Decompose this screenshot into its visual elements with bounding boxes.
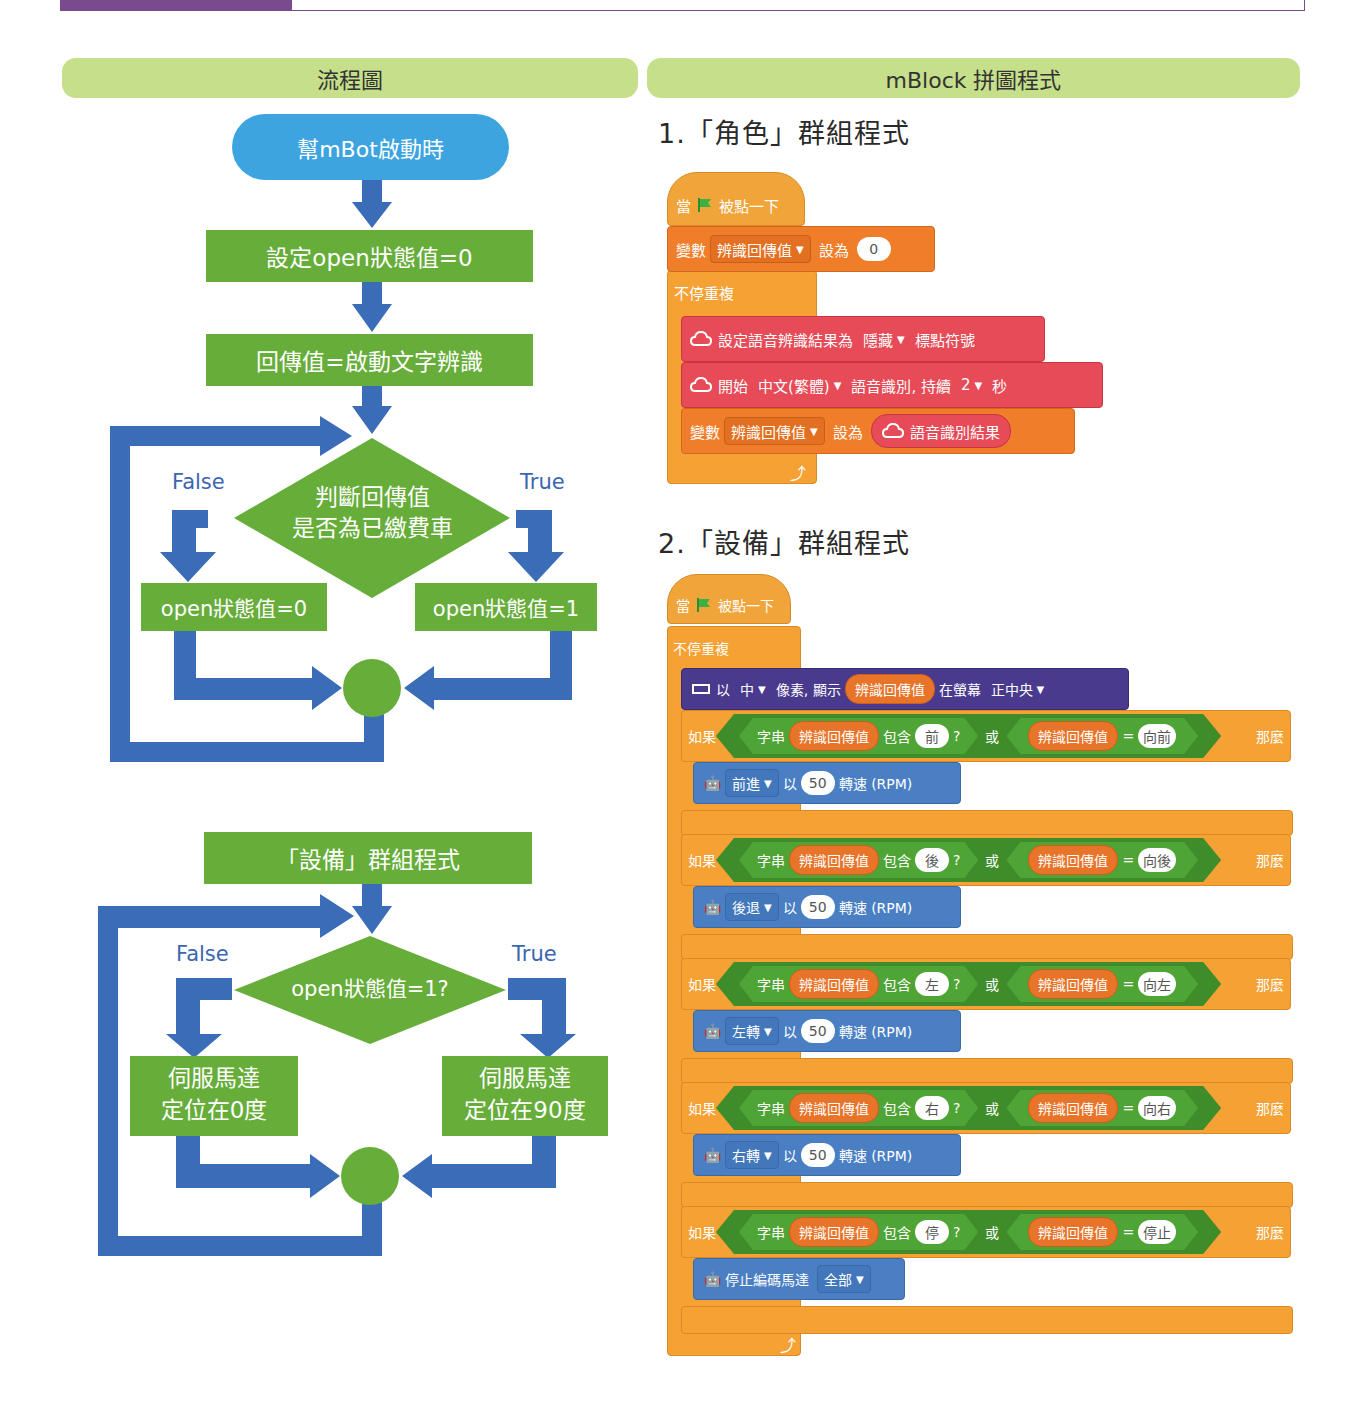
if-footer bbox=[681, 810, 1293, 836]
open-0-label: open狀態值=0 bbox=[141, 583, 327, 631]
variable-reporter[interactable]: 辨識回傳值 bbox=[845, 674, 935, 704]
equals-operator[interactable]: 辨識回傳值 = 向右 bbox=[1006, 1090, 1198, 1126]
variable-reporter[interactable]: 辨識回傳值 bbox=[789, 1093, 879, 1123]
variable-reporter[interactable]: 辨識回傳值 bbox=[1028, 845, 1118, 875]
cloud-ai-icon bbox=[690, 331, 712, 347]
variable-reporter[interactable]: 辨識回傳值 bbox=[789, 721, 879, 751]
equals-input[interactable]: 向右 bbox=[1138, 1096, 1176, 1120]
or-operator[interactable]: 字串 辨識回傳值 包含 前 ? 或 辨識回傳值 = 向前 bbox=[716, 714, 1221, 758]
equals-operator[interactable]: 辨識回傳值 = 向後 bbox=[1006, 842, 1198, 878]
if-block[interactable]: 如果 字串 辨識回傳值 包含 後 ? 或 辨識回傳值 = 向後 那麼 🤖 後退▼… bbox=[681, 834, 1293, 960]
contains-input[interactable]: 左 bbox=[915, 972, 949, 996]
if-block[interactable]: 如果 字串 辨識回傳值 包含 前 ? 或 辨識回傳值 = 向前 那麼 🤖 前進▼… bbox=[681, 710, 1293, 836]
set-punctuation-block[interactable]: 設定語音辨識結果為 隱藏▼ 標點符號 bbox=[681, 316, 1045, 362]
contains-operator[interactable]: 字串 辨識回傳值 包含 左 ? bbox=[739, 966, 978, 1002]
variable-dropdown[interactable]: 辨識回傳值▼ bbox=[724, 417, 825, 445]
if-header[interactable]: 如果 字串 辨識回傳值 包含 前 ? 或 辨識回傳值 = 向前 那麼 bbox=[681, 710, 1291, 762]
equals-input[interactable]: 向左 bbox=[1138, 972, 1176, 996]
contains-operator[interactable]: 字串 辨識回傳值 包含 前 ? bbox=[739, 718, 978, 754]
contains-input[interactable]: 前 bbox=[915, 724, 949, 748]
servo-90-line2: 定位在90度 bbox=[442, 1094, 608, 1126]
open-1-label: open狀態值=1 bbox=[415, 583, 597, 631]
dropdown-arrow-icon: ▼ bbox=[1037, 684, 1045, 695]
stop-motor-block[interactable]: 🤖 停止編碼馬達 全部▼ bbox=[693, 1258, 905, 1300]
or-operator[interactable]: 字串 辨識回傳值 包含 停 ? 或 辨識回傳值 = 停止 bbox=[716, 1210, 1221, 1254]
if-block[interactable]: 如果 字串 辨識回傳值 包含 右 ? 或 辨識回傳值 = 向右 那麼 🤖 右轉▼… bbox=[681, 1082, 1293, 1208]
speed-input[interactable]: 50 bbox=[801, 895, 835, 919]
variable-reporter[interactable]: 辨識回傳值 bbox=[789, 969, 879, 999]
move-block[interactable]: 🤖 右轉▼ 以 50 轉速 (RPM) bbox=[693, 1134, 961, 1176]
equals-operator[interactable]: 辨識回傳值 = 向前 bbox=[1006, 718, 1198, 754]
variable-reporter[interactable]: 辨識回傳值 bbox=[1028, 1093, 1118, 1123]
if-header[interactable]: 如果 字串 辨識回傳值 包含 左 ? 或 辨識回傳值 = 向左 那麼 bbox=[681, 958, 1291, 1010]
move-block[interactable]: 🤖 前進▼ 以 50 轉速 (RPM) bbox=[693, 762, 961, 804]
contains-label: 包含 bbox=[883, 1222, 911, 1242]
contains-input[interactable]: 後 bbox=[915, 848, 949, 872]
direction-dropdown[interactable]: 後退▼ bbox=[725, 893, 779, 921]
equals-sign: = bbox=[1122, 728, 1134, 744]
motor-dropdown[interactable]: 全部▼ bbox=[817, 1265, 871, 1293]
equals-operator[interactable]: 辨識回傳值 = 停止 bbox=[1006, 1214, 1198, 1250]
if-block[interactable]: 如果 字串 辨識回傳值 包含 停 ? 或 辨識回傳值 = 停止 那麼 🤖 停止編… bbox=[681, 1206, 1293, 1334]
equals-input[interactable]: 向後 bbox=[1138, 848, 1176, 872]
question-mark: ? bbox=[953, 728, 960, 744]
display-mid: 像素, 顯示 bbox=[776, 679, 841, 699]
if-header[interactable]: 如果 字串 辨識回傳值 包含 後 ? 或 辨識回傳值 = 向後 那麼 bbox=[681, 834, 1291, 886]
variable-reporter[interactable]: 辨識回傳值 bbox=[1028, 721, 1118, 751]
or-operator[interactable]: 字串 辨識回傳值 包含 左 ? 或 辨識回傳值 = 向左 bbox=[716, 962, 1221, 1006]
equals-input[interactable]: 停止 bbox=[1138, 1220, 1176, 1244]
seconds-dropdown[interactable]: 2▼ bbox=[955, 372, 988, 398]
when-flag-clicked-hat-1[interactable]: 當 被點一下 bbox=[667, 172, 805, 226]
speed-input[interactable]: 50 bbox=[801, 1019, 835, 1043]
direction-dropdown[interactable]: 右轉▼ bbox=[725, 1141, 779, 1169]
position-option: 正中央 bbox=[991, 679, 1033, 699]
if-header[interactable]: 如果 字串 辨識回傳值 包含 右 ? 或 辨識回傳值 = 向右 那麼 bbox=[681, 1082, 1291, 1134]
value-input[interactable]: 0 bbox=[857, 237, 891, 261]
rpm-label: 轉速 (RPM) bbox=[839, 1021, 913, 1041]
variable-reporter[interactable]: 辨識回傳值 bbox=[789, 845, 879, 875]
equals-operator[interactable]: 辨識回傳值 = 向左 bbox=[1006, 966, 1198, 1002]
variable-reporter[interactable]: 辨識回傳值 bbox=[789, 1217, 879, 1247]
move-block[interactable]: 🤖 後退▼ 以 50 轉速 (RPM) bbox=[693, 886, 961, 928]
or-operator[interactable]: 字串 辨識回傳值 包含 右 ? 或 辨識回傳值 = 向右 bbox=[716, 1086, 1221, 1130]
position-dropdown[interactable]: 正中央▼ bbox=[985, 676, 1051, 702]
set-variable-block-1[interactable]: 變數 辨識回傳值▼ 設為 0 bbox=[667, 226, 935, 272]
variable-reporter[interactable]: 辨識回傳值 bbox=[1028, 969, 1118, 999]
when-flag-clicked-hat-2[interactable]: 當 被點一下 bbox=[667, 574, 791, 624]
contains-operator[interactable]: 字串 辨識回傳值 包含 右 ? bbox=[739, 1090, 978, 1126]
size-dropdown[interactable]: 中▼ bbox=[734, 676, 772, 702]
language-dropdown[interactable]: 中文(繁體)▼ bbox=[752, 372, 847, 398]
hat-clicked-text: 被點一下 bbox=[718, 595, 774, 615]
move-block[interactable]: 🤖 左轉▼ 以 50 轉速 (RPM) bbox=[693, 1010, 961, 1052]
contains-input[interactable]: 右 bbox=[915, 1096, 949, 1120]
if-header[interactable]: 如果 字串 辨識回傳值 包含 停 ? 或 辨識回傳值 = 停止 那麼 bbox=[681, 1206, 1291, 1258]
variable-dropdown[interactable]: 辨識回傳值▼ bbox=[710, 235, 811, 263]
if-block[interactable]: 如果 字串 辨識回傳值 包含 左 ? 或 辨識回傳值 = 向左 那麼 🤖 左轉▼… bbox=[681, 958, 1293, 1084]
string-label: 字串 bbox=[757, 974, 785, 994]
forever-label-2: 不停重複 bbox=[673, 638, 729, 658]
servo-90-line1: 伺服馬達 bbox=[442, 1062, 608, 1094]
cloud-ai-icon bbox=[882, 423, 904, 439]
recognition-result-reporter[interactable]: 語音識別結果 bbox=[871, 414, 1011, 448]
then-label: 那麼 bbox=[1256, 726, 1284, 746]
speed-input[interactable]: 50 bbox=[801, 771, 835, 795]
direction-option: 後退 bbox=[732, 897, 760, 917]
string-label: 字串 bbox=[757, 1098, 785, 1118]
mblock-header: mBlock 拼圖程式 bbox=[647, 58, 1300, 98]
contains-input[interactable]: 停 bbox=[915, 1220, 949, 1244]
display-text-block[interactable]: 以 中▼ 像素, 顯示 辨識回傳值 在螢幕 正中央▼ bbox=[681, 668, 1129, 710]
or-operator[interactable]: 字串 辨識回傳值 包含 後 ? 或 辨識回傳值 = 向後 bbox=[716, 838, 1221, 882]
contains-operator[interactable]: 字串 辨識回傳值 包含 後 ? bbox=[739, 842, 978, 878]
equals-input[interactable]: 向前 bbox=[1138, 724, 1176, 748]
set-variable-block-2[interactable]: 變數 辨識回傳值▼ 設為 語音識別結果 bbox=[681, 408, 1075, 454]
variable-reporter[interactable]: 辨識回傳值 bbox=[1028, 1217, 1118, 1247]
speed-input[interactable]: 50 bbox=[801, 1143, 835, 1167]
question-mark: ? bbox=[953, 852, 960, 868]
contains-operator[interactable]: 字串 辨識回傳值 包含 停 ? bbox=[739, 1214, 978, 1250]
direction-dropdown[interactable]: 前進▼ bbox=[725, 769, 779, 797]
punct-dropdown[interactable]: 隱藏▼ bbox=[857, 326, 911, 352]
direction-dropdown[interactable]: 左轉▼ bbox=[725, 1017, 779, 1045]
direction-option: 左轉 bbox=[732, 1021, 760, 1041]
if-footer bbox=[681, 1182, 1293, 1208]
start-recognition-block[interactable]: 開始 中文(繁體)▼ 語音識別, 持續 2▼ 秒 bbox=[681, 362, 1103, 408]
